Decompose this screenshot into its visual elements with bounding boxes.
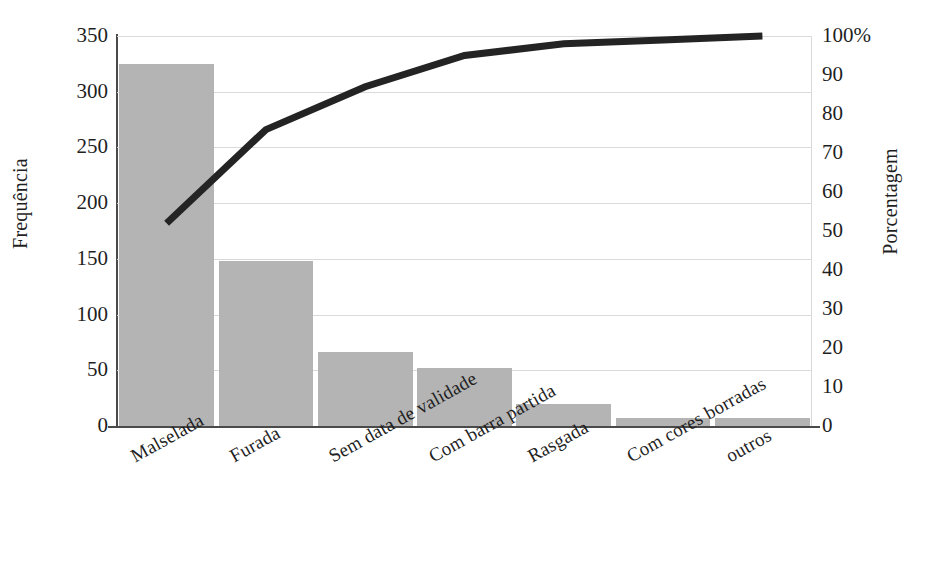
x-tick-label: outros	[722, 424, 775, 467]
x-tick-label: Furada	[226, 422, 284, 467]
x-tick-label: Rasgada	[524, 416, 592, 467]
x-axis-category-labels: MalseladaFuradaSem data de validadeCom b…	[0, 0, 939, 584]
x-tick-label: Malselada	[127, 409, 208, 467]
pareto-chart: Frequência Porcentagem 05010015020025030…	[0, 0, 939, 584]
